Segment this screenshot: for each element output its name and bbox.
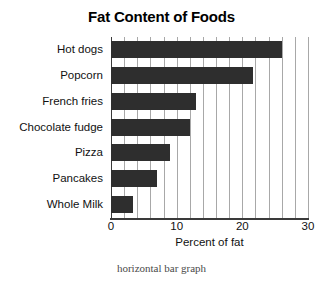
figure-caption: horizontal bar graph — [0, 262, 323, 274]
bar-row — [111, 140, 308, 166]
bar-chart-figure: Fat Content of Foods Hot dogsPopcornFren… — [0, 0, 323, 287]
bar-series — [111, 37, 308, 218]
bar — [111, 93, 196, 110]
x-axis-title: Percent of fat — [111, 236, 308, 248]
bar — [111, 41, 282, 58]
bar-row — [111, 192, 308, 218]
plot-area — [111, 37, 308, 218]
x-tick-label: 20 — [236, 220, 249, 232]
category-label: Pancakes — [52, 166, 103, 192]
category-label: Pizza — [75, 140, 103, 166]
category-label: French fries — [42, 89, 103, 115]
bar — [111, 144, 170, 161]
category-label: Hot dogs — [57, 37, 103, 63]
x-tick-label: 30 — [302, 220, 315, 232]
bar — [111, 170, 157, 187]
chart-title: Fat Content of Foods — [0, 8, 323, 25]
bar — [111, 119, 190, 136]
x-tick-label: 0 — [108, 220, 114, 232]
bar — [111, 196, 133, 213]
category-label: Whole Milk — [47, 192, 103, 218]
bar-row — [111, 115, 308, 141]
bar-row — [111, 89, 308, 115]
category-label: Popcorn — [60, 63, 103, 89]
gridline — [308, 37, 309, 218]
bar-row — [111, 166, 308, 192]
x-tick-label: 10 — [170, 220, 183, 232]
bar-row — [111, 63, 308, 89]
x-axis-tick-labels: 0102030 — [0, 220, 323, 236]
bar-row — [111, 37, 308, 63]
bar — [111, 67, 253, 84]
category-label: Chocolate fudge — [19, 115, 103, 141]
category-axis-labels: Hot dogsPopcornFrench friesChocolate fud… — [0, 37, 107, 218]
